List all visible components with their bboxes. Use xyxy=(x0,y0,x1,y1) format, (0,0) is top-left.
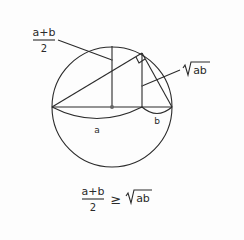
label-segment-b: b xyxy=(154,116,160,126)
formula-numerator: a+b xyxy=(82,185,105,198)
tick-mean xyxy=(111,59,113,61)
label-segment-a: a xyxy=(94,125,100,135)
label-mean-denominator: 2 xyxy=(41,43,47,54)
am-gm-diagram: a+b 2 ab a b a+b 2 ≥ ab xyxy=(0,0,244,240)
formula-denominator: 2 xyxy=(90,202,96,213)
brace-b xyxy=(142,107,172,114)
label-geo-radicand: ab xyxy=(193,64,207,77)
formula-relation: ≥ xyxy=(111,192,122,207)
brace-a xyxy=(52,107,142,119)
center-point xyxy=(110,105,114,109)
right-angle-marker xyxy=(136,57,145,63)
chord-left xyxy=(52,53,142,107)
formula-radicand: ab xyxy=(136,192,150,205)
label-mean-numerator: a+b xyxy=(33,26,56,39)
leader-mean xyxy=(58,40,112,60)
tick-geo xyxy=(141,85,143,87)
